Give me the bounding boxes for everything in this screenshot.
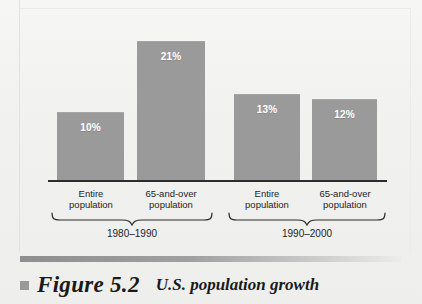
group-label-1980-1990: 1980–1990 <box>50 228 214 239</box>
category-label-line2: population <box>49 199 133 210</box>
category-label-entire-population-1980-1990: Entire population <box>49 188 133 210</box>
caption-divider-rule <box>20 256 401 262</box>
bar-value-label: 21% <box>137 51 205 62</box>
category-label-line1: Entire <box>49 188 133 199</box>
bar-entire-population-1990-2000: 13% <box>234 94 300 180</box>
bar-value-label: 12% <box>312 109 377 120</box>
bar-value-label: 13% <box>234 104 300 115</box>
bar-entire-population-1980-1990: 10% <box>57 112 124 180</box>
category-label-line1: 65-and-over <box>129 188 213 199</box>
bar-65-and-over-population-1980-1990: 21% <box>137 41 205 180</box>
category-label-line1: 65-and-over <box>303 188 387 199</box>
figure-number-label: Figure 5.2 <box>37 272 140 298</box>
figure-page: 10% 21% 13% 12% Entire population 65-and… <box>0 0 422 304</box>
bar-65-and-over-population-1990-2000: 12% <box>312 99 377 180</box>
figure-title: U.S. population growth <box>156 275 319 295</box>
group-label-1990-2000: 1990–2000 <box>227 228 387 239</box>
figure-caption: Figure 5.2 U.S. population growth <box>20 270 410 300</box>
category-label-line2: population <box>129 199 213 210</box>
group-brace-1980-1990 <box>50 212 214 226</box>
group-brace-1990-2000 <box>227 212 387 226</box>
bar-value-label: 10% <box>57 122 124 133</box>
category-label-line1: Entire <box>225 188 309 199</box>
category-label-line2: population <box>303 199 387 210</box>
category-label-entire-population-1990-2000: Entire population <box>225 188 309 210</box>
category-label-line2: population <box>225 199 309 210</box>
x-axis-baseline <box>48 180 387 182</box>
category-label-65-and-over-population-1980-1990: 65-and-over population <box>129 188 213 210</box>
square-bullet-icon <box>20 281 29 290</box>
bar-chart-plot-area: 10% 21% 13% 12% Entire population 65-and… <box>0 0 422 250</box>
category-label-65-and-over-population-1990-2000: 65-and-over population <box>303 188 387 210</box>
